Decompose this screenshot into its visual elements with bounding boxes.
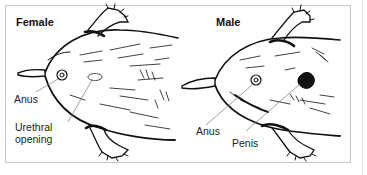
illustration	[0, 0, 367, 175]
label-anus-male: Anus	[196, 125, 220, 137]
leader-anus-male	[206, 85, 252, 125]
label-urethral-line1: Urethral	[15, 121, 52, 133]
label-penis: Penis	[232, 137, 258, 149]
panel-title-male: Male	[216, 16, 240, 28]
panel-title-female: Female	[16, 16, 54, 28]
label-urethral-opening: Urethral opening	[15, 121, 52, 145]
label-anus-female: Anus	[14, 93, 38, 105]
leader-urethral-female	[68, 80, 92, 122]
label-urethral-line2: opening	[15, 133, 52, 145]
male-animal-drawing	[182, 5, 340, 161]
